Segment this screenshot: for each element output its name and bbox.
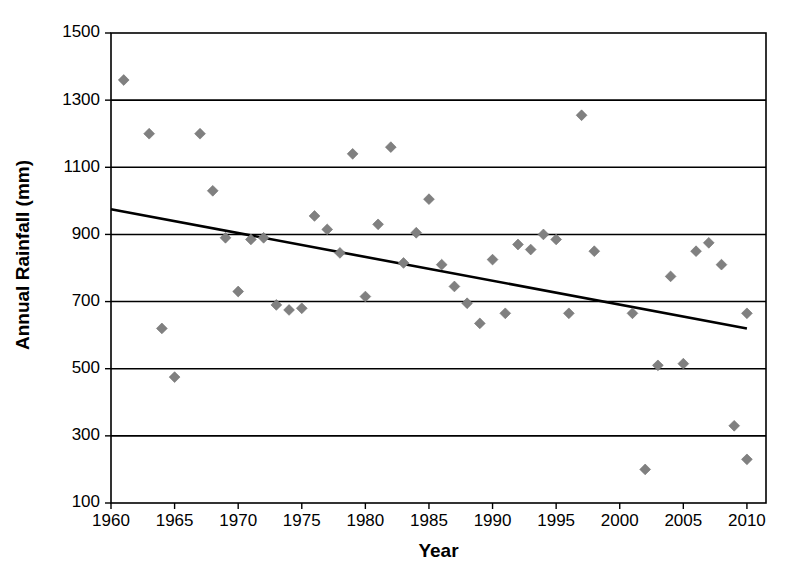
gridlines-group bbox=[111, 100, 766, 436]
data-point bbox=[742, 308, 753, 319]
y-tick-label: 900 bbox=[72, 224, 100, 243]
plot-frame bbox=[111, 33, 766, 503]
data-point bbox=[309, 211, 320, 222]
data-point bbox=[424, 194, 435, 205]
data-point bbox=[398, 258, 409, 269]
trend-line-segment bbox=[111, 209, 747, 328]
data-point bbox=[513, 239, 524, 250]
data-point bbox=[691, 246, 702, 257]
x-tick-label: 2000 bbox=[601, 511, 639, 530]
x-tick-label: 1995 bbox=[537, 511, 575, 530]
data-point bbox=[296, 303, 307, 314]
x-tick-label: 1960 bbox=[92, 511, 130, 530]
data-point bbox=[144, 128, 155, 139]
x-tick-label: 1980 bbox=[346, 511, 384, 530]
data-point bbox=[576, 110, 587, 121]
data-point bbox=[411, 227, 422, 238]
data-point bbox=[385, 142, 396, 153]
x-tick-label: 2010 bbox=[728, 511, 766, 530]
data-point bbox=[118, 75, 129, 86]
y-tick-label: 300 bbox=[72, 425, 100, 444]
y-tick-label: 700 bbox=[72, 291, 100, 310]
x-axis-title: Year bbox=[111, 540, 766, 562]
data-point bbox=[322, 224, 333, 235]
data-point bbox=[665, 271, 676, 282]
data-point bbox=[627, 308, 638, 319]
x-tick-label: 1975 bbox=[283, 511, 321, 530]
data-point bbox=[195, 128, 206, 139]
data-point bbox=[678, 358, 689, 369]
data-point bbox=[284, 305, 295, 316]
data-point bbox=[169, 372, 180, 383]
y-tick-label: 500 bbox=[72, 358, 100, 377]
x-tick-label: 1965 bbox=[156, 511, 194, 530]
data-point bbox=[500, 308, 511, 319]
x-axis-ticks-group: 1960196519701975198019851990199520002005… bbox=[92, 503, 766, 530]
data-point bbox=[487, 254, 498, 265]
data-point bbox=[589, 246, 600, 257]
data-point bbox=[563, 308, 574, 319]
y-tick-label: 1300 bbox=[62, 90, 100, 109]
data-point bbox=[742, 454, 753, 465]
data-point bbox=[474, 318, 485, 329]
data-point bbox=[640, 464, 651, 475]
data-point bbox=[156, 323, 167, 334]
y-tick-label: 1500 bbox=[62, 22, 100, 41]
data-point bbox=[360, 291, 371, 302]
y-tick-label: 100 bbox=[72, 492, 100, 511]
data-points-group bbox=[118, 75, 752, 475]
plot-canvas: 100300500700900110013001500 196019651970… bbox=[0, 0, 802, 586]
data-point bbox=[335, 247, 346, 258]
data-point bbox=[449, 281, 460, 292]
x-tick-label: 2005 bbox=[664, 511, 702, 530]
data-point bbox=[551, 234, 562, 245]
data-point bbox=[373, 219, 384, 230]
data-point bbox=[729, 420, 740, 431]
rainfall-scatter-chart: Annual Rainfall (mm) 1003005007009001100… bbox=[0, 0, 802, 586]
data-point bbox=[347, 148, 358, 159]
x-tick-label: 1985 bbox=[410, 511, 448, 530]
data-point bbox=[538, 229, 549, 240]
data-point bbox=[207, 185, 218, 196]
x-tick-label: 1970 bbox=[219, 511, 257, 530]
x-tick-label: 1990 bbox=[474, 511, 512, 530]
trend-line bbox=[111, 209, 747, 328]
data-point bbox=[233, 286, 244, 297]
data-point bbox=[462, 298, 473, 309]
y-axis-ticks-group: 100300500700900110013001500 bbox=[62, 22, 111, 511]
data-point bbox=[716, 259, 727, 270]
data-point bbox=[525, 244, 536, 255]
data-point bbox=[436, 259, 447, 270]
y-tick-label: 1100 bbox=[63, 157, 100, 176]
data-point bbox=[703, 237, 714, 248]
